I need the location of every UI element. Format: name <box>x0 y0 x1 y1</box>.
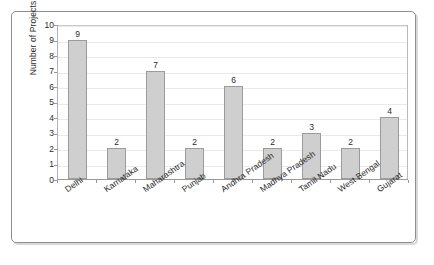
bar[interactable] <box>224 86 244 179</box>
y-axis-tick-label: 5 <box>38 98 54 107</box>
y-axis-tick-label: 9 <box>38 36 54 45</box>
bar-group[interactable]: 2 <box>263 26 283 179</box>
plot-area: 927262324 <box>57 25 408 180</box>
bar-value-label: 3 <box>309 123 314 132</box>
y-axis-tick-label: 4 <box>38 114 54 123</box>
bar-value-label: 4 <box>387 107 392 116</box>
y-axis-tick-labels: 012345678910 <box>36 0 54 265</box>
y-axis-tick-label: 1 <box>38 160 54 169</box>
bar-value-label: 2 <box>270 138 275 147</box>
y-axis-tick-label: 3 <box>38 129 54 138</box>
y-axis-tick-label: 7 <box>38 67 54 76</box>
bar-value-label: 2 <box>348 138 353 147</box>
bar-value-label: 7 <box>153 61 158 70</box>
y-axis-tick-mark <box>54 180 57 181</box>
bar-chart-figure: Number of Projects 012345678910 92726232… <box>0 0 434 265</box>
y-axis-tick-label: 2 <box>38 145 54 154</box>
y-axis-line <box>57 25 58 180</box>
bar[interactable] <box>263 148 283 179</box>
x-axis-line <box>57 179 408 180</box>
bar-group[interactable]: 7 <box>146 26 166 179</box>
bar-group[interactable]: 3 <box>302 26 322 179</box>
bar[interactable] <box>185 148 205 179</box>
bar[interactable] <box>107 148 127 179</box>
bar[interactable] <box>146 71 166 180</box>
y-axis-tick-label: 0 <box>38 176 54 185</box>
bar-group[interactable]: 2 <box>341 26 361 179</box>
bar-value-label: 6 <box>231 76 236 85</box>
bar-value-label: 2 <box>114 138 119 147</box>
bar[interactable] <box>380 117 400 179</box>
bar-value-label: 9 <box>75 30 80 39</box>
bar-group[interactable]: 2 <box>185 26 205 179</box>
bar-group[interactable]: 9 <box>68 26 88 179</box>
y-axis-tick-label: 6 <box>38 83 54 92</box>
bar[interactable] <box>341 148 361 179</box>
bar-group[interactable]: 2 <box>107 26 127 179</box>
bar[interactable] <box>68 40 88 180</box>
bar-value-label: 2 <box>192 138 197 147</box>
y-axis-tick-label: 8 <box>38 52 54 61</box>
bar-group[interactable]: 6 <box>224 26 244 179</box>
bar-group[interactable]: 4 <box>380 26 400 179</box>
bar[interactable] <box>302 133 322 180</box>
y-axis-tick-label: 10 <box>38 21 54 30</box>
